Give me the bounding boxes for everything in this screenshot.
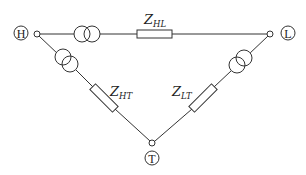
node-h-label: H: [17, 27, 26, 41]
ideal-transformer-icon-lt: [229, 50, 252, 73]
node-l-label: L: [284, 27, 291, 41]
impedance-box-hl: [137, 30, 172, 38]
impedance-label-lt: ZLT: [171, 84, 193, 101]
transformer-delta-diagram: H L T ZHL ZHT ZLT: [0, 0, 306, 175]
impedance-label-ht: ZHT: [109, 84, 133, 101]
node-t-label: T: [148, 152, 156, 166]
impedance-box-lt: [189, 84, 217, 112]
terminal-l: [267, 31, 273, 37]
ideal-transformer-icon-ht: [55, 49, 78, 72]
branch-ht: [39, 36, 150, 141]
ideal-transformer-icon-hl: [74, 26, 100, 42]
impedance-label-hl: ZHL: [143, 12, 166, 29]
terminal-h: [34, 31, 40, 37]
terminal-t: [149, 140, 155, 146]
